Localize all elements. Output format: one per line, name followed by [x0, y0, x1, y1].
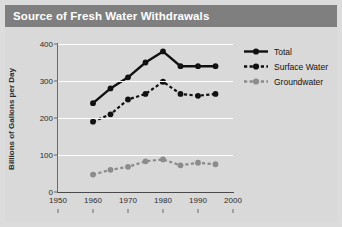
dashed-gray-line-marker-icon [243, 76, 269, 87]
data-point [160, 49, 166, 55]
y-axis-tick-mark [54, 192, 58, 193]
data-point [178, 162, 184, 168]
data-point [195, 160, 201, 166]
chart-title-bar: Source of Fresh Water Withdrawals [5, 5, 337, 27]
chart-figure: Source of Fresh Water Withdrawals Billio… [0, 0, 342, 227]
gridline [58, 81, 233, 82]
x-axis-tick-label: 1960 [84, 196, 102, 205]
legend-label: Groundwater [274, 77, 323, 87]
legend-item-groundwater: Groundwater [243, 74, 335, 89]
x-axis-tick-label: 1990 [189, 196, 207, 205]
data-point [213, 63, 219, 69]
data-point [195, 93, 201, 99]
data-point [143, 91, 149, 97]
data-point [143, 158, 149, 164]
y-axis-tick-label: 400 [40, 40, 53, 49]
y-axis-tick-mark [54, 118, 58, 119]
data-point [108, 111, 114, 117]
data-point [90, 119, 96, 125]
y-axis-tick-mark [54, 81, 58, 82]
data-point [125, 164, 131, 170]
y-axis-tick-mark [54, 44, 58, 45]
y-axis-tick-label: 300 [40, 77, 53, 86]
y-axis-tick-mark [54, 155, 58, 156]
data-point [178, 63, 184, 69]
data-point [213, 161, 219, 167]
data-point [108, 167, 114, 173]
x-axis-tick-mark [93, 209, 94, 213]
page-title: Source of Fresh Water Withdrawals [13, 10, 209, 22]
gridline [58, 44, 233, 45]
x-axis-tick-mark [163, 209, 164, 213]
dashed-line-marker-icon [243, 61, 269, 72]
y-axis-tick-label: 100 [40, 151, 53, 160]
x-axis-tick-mark [198, 209, 199, 213]
x-axis-line [57, 192, 234, 193]
y-axis-label: Billions of Gallons per Day [7, 68, 16, 170]
data-point [143, 60, 149, 66]
data-point [90, 172, 96, 178]
legend-label: Surface Water [274, 62, 328, 72]
x-axis-tick-label: 2000 [224, 196, 242, 205]
data-point [160, 157, 166, 163]
y-axis-tick-label: 200 [40, 114, 53, 123]
x-axis-tick-label: 1950 [49, 196, 67, 205]
data-point [195, 63, 201, 69]
legend-item-total: Total [243, 44, 335, 59]
chart-panel: Billions of Gallons per Day 010020030040… [5, 27, 337, 222]
data-point [125, 97, 131, 103]
gridline [58, 155, 233, 156]
x-axis-tick-mark [128, 209, 129, 213]
plot-area: 0100200300400 195019601970198019902000 [58, 44, 233, 192]
data-point [178, 91, 184, 97]
solid-line-marker-icon [243, 46, 269, 57]
x-axis-tick-mark [58, 209, 59, 213]
x-axis-tick-label: 1970 [119, 196, 137, 205]
series-groundwater [90, 157, 218, 178]
data-point [90, 100, 96, 106]
gridline [58, 118, 233, 119]
chart-legend: TotalSurface WaterGroundwater [243, 44, 335, 89]
data-point [108, 86, 114, 92]
legend-label: Total [274, 47, 292, 57]
legend-item-surface-water: Surface Water [243, 59, 335, 74]
x-axis-tick-label: 1980 [154, 196, 172, 205]
data-point [125, 74, 131, 80]
data-point [213, 91, 219, 97]
x-axis-tick-mark [233, 209, 234, 213]
